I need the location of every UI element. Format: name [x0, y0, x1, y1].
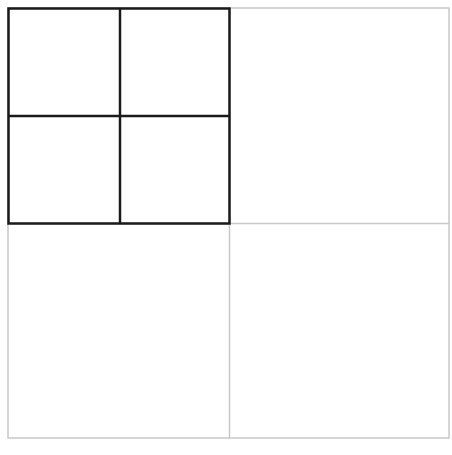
grid-canvas: [0, 0, 452, 455]
nested-grid-diagram: [0, 0, 452, 455]
background: [0, 0, 452, 455]
